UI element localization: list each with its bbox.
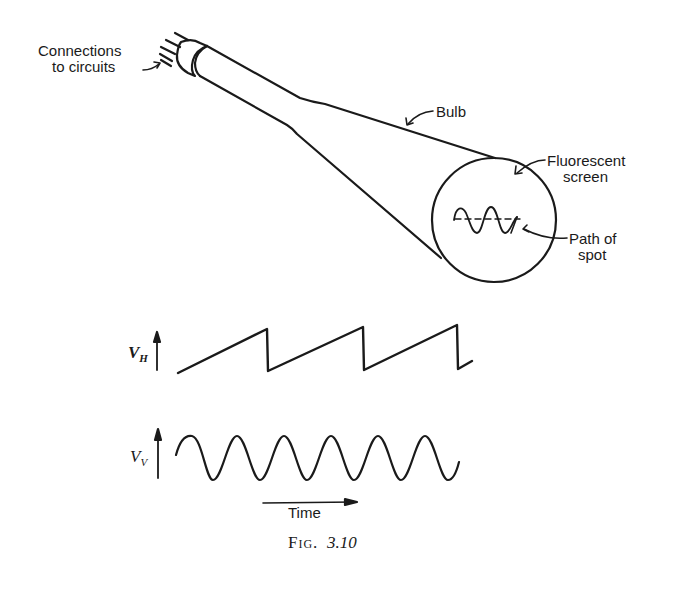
tube-base [177, 40, 207, 76]
path-leader [524, 229, 567, 238]
connections-label-line2: to circuits [38, 59, 121, 75]
sine-waveform [176, 436, 459, 480]
sawtooth-waveform [178, 325, 472, 373]
connector-pins [160, 33, 188, 66]
path-label-line2: spot [569, 247, 617, 263]
path-label-line1: Path of [569, 231, 617, 247]
time-axis-arrow [263, 502, 355, 503]
crt-diagram [0, 0, 683, 589]
bulb-label: Bulb [436, 104, 466, 120]
caption-number: 3.10 [327, 533, 357, 552]
path-of-spot-label: Path of spot [569, 231, 617, 263]
time-label: Time [288, 505, 321, 521]
vv-subscript: V [140, 456, 147, 468]
screen-label-line2: screen [547, 169, 625, 185]
fluorescent-screen [432, 158, 556, 282]
vh-label: VH [128, 345, 148, 366]
vv-symbol: V [130, 447, 140, 466]
figure-caption: Fig. 3.10 [288, 533, 357, 553]
bulb-outline-top [207, 46, 495, 158]
vh-symbol: V [128, 343, 139, 362]
spot-path-wave [454, 207, 517, 233]
connections-label-line1: Connections [38, 43, 121, 59]
screen-label: Fluorescent screen [547, 153, 625, 185]
bulb-leader [408, 111, 433, 124]
caption-prefix: Fig. [288, 533, 318, 552]
connections-label: Connections to circuits [38, 43, 121, 75]
screen-label-line1: Fluorescent [547, 153, 625, 169]
connections-leader [143, 64, 159, 70]
vv-label: VV [130, 449, 147, 470]
vh-subscript: H [139, 352, 148, 364]
